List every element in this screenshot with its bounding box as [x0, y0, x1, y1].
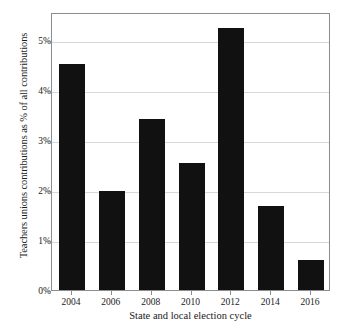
bar	[218, 28, 244, 290]
x-tick-mark	[151, 291, 152, 295]
x-tick-label: 2006	[91, 296, 131, 308]
x-tick-mark	[71, 291, 72, 295]
bar	[179, 163, 205, 291]
x-tick-label: 2010	[171, 296, 211, 308]
plot-area	[51, 13, 330, 291]
bar	[258, 206, 284, 290]
x-tick-label: 2004	[51, 296, 91, 308]
x-axis-title: State and local election cycle	[51, 309, 330, 323]
gridline	[52, 142, 329, 143]
x-tick-label: 2012	[210, 296, 250, 308]
x-tick-label: 2014	[250, 296, 290, 308]
gridline	[52, 92, 329, 93]
bar-chart: Teachers unions contributions as % of al…	[0, 0, 345, 329]
bar	[139, 119, 165, 290]
bar	[99, 191, 125, 290]
x-tick-mark	[230, 291, 231, 295]
x-tick-label: 2008	[131, 296, 171, 308]
x-tick-mark	[111, 291, 112, 295]
x-tick-label: 2016	[290, 296, 330, 308]
y-axis-ticks: 0%1%2%3%4%5%	[18, 0, 51, 329]
x-axis-ticks: 2004200620082010201220142016	[51, 291, 330, 311]
bar	[298, 260, 324, 290]
x-tick-mark	[310, 291, 311, 295]
x-tick-mark	[191, 291, 192, 295]
gridline	[52, 42, 329, 43]
bar	[59, 64, 85, 290]
x-tick-mark	[270, 291, 271, 295]
